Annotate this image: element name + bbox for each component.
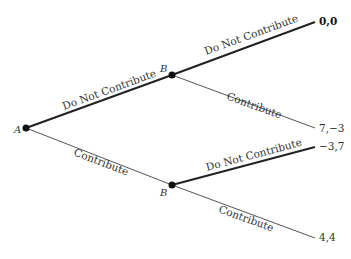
game-tree-diagram: A B B Do Not Contribute Contribute Do No… (0, 0, 351, 259)
node-upper-b-label: B (159, 63, 167, 74)
payoff-dnc-dnc: 0,0 (319, 15, 337, 27)
node-lower-b (169, 182, 176, 189)
payoff-c-c: 4,4 (319, 231, 336, 243)
node-lower-b-label: B (159, 187, 167, 198)
node-a-label: A (13, 124, 21, 135)
node-a (23, 125, 30, 132)
edge-label-a-do-not-contribute: Do Not Contribute (61, 67, 158, 112)
payoff-c-dnc: −3,7 (319, 140, 345, 152)
edge-a-do-not-contribute (26, 75, 172, 128)
edge-label-upper-b-do-not-contribute: Do Not Contribute (203, 12, 300, 57)
payoff-dnc-c: 7,−3 (319, 122, 345, 134)
edge-label-lower-b-contribute: Contribute (217, 203, 275, 234)
node-upper-b (169, 72, 176, 79)
edge-label-upper-b-contribute: Contribute (225, 90, 283, 121)
edge-label-a-contribute: Contribute (72, 146, 130, 178)
